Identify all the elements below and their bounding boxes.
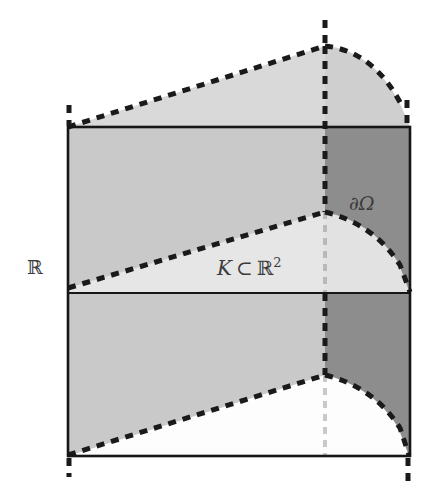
top-dome-right-region xyxy=(325,46,410,127)
compact-set-symbol: K xyxy=(217,256,232,280)
boundary-label: ∂Ω xyxy=(349,192,375,214)
real-line-label: ℝ xyxy=(27,256,43,278)
real-plane-exponent: 2 xyxy=(273,255,281,270)
real-plane-symbol: ℝ xyxy=(257,256,274,280)
geometry-diagram xyxy=(0,0,425,499)
subset-relation-symbol: ⊂ xyxy=(232,256,257,280)
figure-container: ℝ K⊂ℝ2 ∂Ω xyxy=(0,0,425,499)
compact-set-label: K⊂ℝ2 xyxy=(217,256,282,280)
